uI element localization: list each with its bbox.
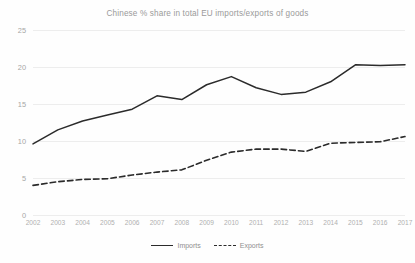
y-tick-label-20: 20 [18, 63, 26, 72]
legend-swatch-imports [151, 245, 173, 246]
x-tick-label-2007: 2007 [150, 219, 165, 226]
x-tick-label-2004: 2004 [75, 219, 90, 226]
x-tick-label-2011: 2011 [249, 219, 263, 226]
legend-label-exports: Exports [240, 242, 264, 249]
x-tick-label-2006: 2006 [125, 219, 140, 226]
series-group [33, 30, 405, 215]
x-tick-label-2010: 2010 [224, 219, 239, 226]
series-line-imports [33, 65, 405, 144]
y-tick-label-15: 15 [18, 100, 26, 109]
legend-label-imports: Imports [177, 242, 200, 249]
x-axis: 2002200320042005200620072008200920102011… [33, 219, 405, 233]
y-tick-label-25: 25 [18, 26, 26, 35]
x-tick-label-2005: 2005 [100, 219, 115, 226]
chart-container: Chinese % share in total EU imports/expo… [0, 0, 415, 263]
legend-swatch-exports [214, 245, 236, 246]
chart-title: Chinese % share in total EU imports/expo… [0, 9, 415, 18]
x-tick-label-2008: 2008 [174, 219, 189, 226]
plot-area [33, 30, 405, 215]
x-tick-label-2016: 2016 [373, 219, 388, 226]
x-tick-label-2013: 2013 [298, 219, 313, 226]
y-axis: 0510152025 [0, 30, 30, 215]
series-line-exports [33, 137, 405, 186]
x-tick-label-2002: 2002 [26, 219, 41, 226]
y-tick-label-10: 10 [18, 137, 26, 146]
x-tick-label-2009: 2009 [199, 219, 214, 226]
gridline-0 [33, 215, 405, 216]
y-tick-label-5: 5 [22, 174, 26, 183]
x-tick-label-2017: 2017 [398, 219, 413, 226]
x-tick-label-2012: 2012 [274, 219, 289, 226]
x-tick-label-2003: 2003 [50, 219, 65, 226]
legend-item-imports[interactable]: Imports [151, 242, 200, 249]
x-tick-label-2014: 2014 [323, 219, 338, 226]
x-tick-label-2015: 2015 [348, 219, 363, 226]
legend-item-exports[interactable]: Exports [214, 242, 264, 249]
chart-legend: ImportsExports [0, 242, 415, 249]
